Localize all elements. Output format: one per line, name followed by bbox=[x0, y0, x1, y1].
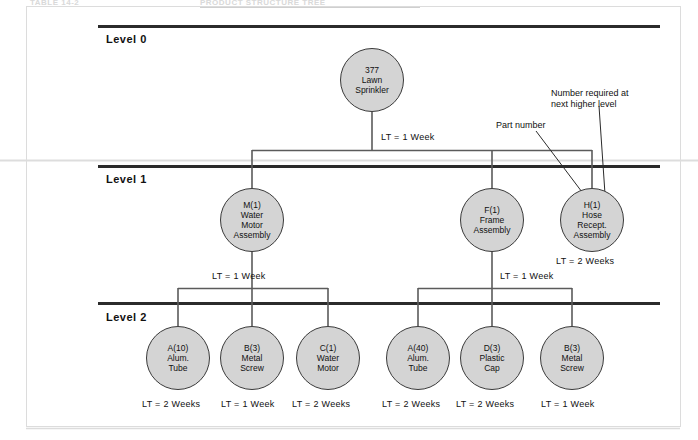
node-line: Recept. bbox=[577, 220, 606, 230]
lead-time-b3-left: LT = 1 Week bbox=[221, 399, 275, 409]
node-b3-metal-screw-left[interactable]: B(3) Metal Screw bbox=[220, 326, 284, 390]
node-line: Motor bbox=[241, 220, 263, 230]
product-structure-tree-figure: TABLE 14-2 PRODUCT STRUCTURE TREE bbox=[0, 0, 698, 440]
node-c1-water-motor[interactable]: C(1) Water Motor bbox=[296, 326, 360, 390]
node-line: Metal bbox=[562, 353, 583, 363]
node-line: Metal bbox=[242, 353, 263, 363]
node-line: A(10) bbox=[168, 343, 189, 353]
node-line: Water bbox=[241, 210, 263, 220]
level-label-1: Level 1 bbox=[106, 173, 147, 185]
node-d3-plastic-cap[interactable]: D(3) Plastic Cap bbox=[460, 326, 524, 390]
node-a10-alum-tube[interactable]: A(10) Alum. Tube bbox=[146, 326, 210, 390]
node-h1-hose-recept-assembly[interactable]: H(1) Hose Recept. Assembly bbox=[560, 188, 624, 252]
lead-time-a10: LT = 2 Weeks bbox=[142, 399, 200, 409]
lead-time-f1: LT = 1 Week bbox=[500, 271, 554, 281]
lead-time-a40: LT = 2 Weeks bbox=[382, 399, 440, 409]
node-line: Motor bbox=[317, 363, 339, 373]
node-line: Lawn bbox=[362, 75, 382, 85]
node-line: H(1) bbox=[584, 200, 601, 210]
lead-time-m1: LT = 1 Week bbox=[212, 271, 266, 281]
annotation-number-required-line1: Number required at bbox=[551, 88, 629, 99]
node-line: Plastic bbox=[479, 353, 504, 363]
node-line: Screw bbox=[560, 363, 584, 373]
node-line: Screw bbox=[240, 363, 264, 373]
node-line: A(40) bbox=[408, 343, 429, 353]
node-line: F(1) bbox=[484, 205, 500, 215]
lead-time-d3: LT = 2 Weeks bbox=[456, 399, 514, 409]
node-a40-alum-tube[interactable]: A(40) Alum. Tube bbox=[386, 326, 450, 390]
node-line: Assembly bbox=[234, 230, 271, 240]
node-line: Sprinkler bbox=[355, 85, 389, 95]
node-line: D(3) bbox=[484, 343, 501, 353]
node-377-lawn-sprinkler[interactable]: 377 Lawn Sprinkler bbox=[340, 48, 404, 112]
node-line: Hose bbox=[582, 210, 602, 220]
node-line: 377 bbox=[365, 65, 379, 75]
node-f1-frame-assembly[interactable]: F(1) Frame Assembly bbox=[460, 188, 524, 252]
leader-part-number bbox=[536, 131, 585, 196]
annotation-part-number: Part number bbox=[496, 120, 546, 131]
node-line: Alum. bbox=[407, 353, 429, 363]
lead-time-b3-right: LT = 1 Week bbox=[541, 399, 595, 409]
node-line: C(1) bbox=[320, 343, 337, 353]
node-line: Assembly bbox=[474, 225, 511, 235]
node-line: Tube bbox=[408, 363, 427, 373]
node-line: Alum. bbox=[167, 353, 189, 363]
node-line: B(3) bbox=[244, 343, 260, 353]
node-line: Cap bbox=[484, 363, 500, 373]
node-b3-metal-screw-right[interactable]: B(3) Metal Screw bbox=[540, 326, 604, 390]
lead-time-h1: LT = 2 Weeks bbox=[556, 256, 614, 266]
lead-time-c1: LT = 2 Weeks bbox=[292, 399, 350, 409]
node-line: B(3) bbox=[564, 343, 580, 353]
node-line: Water bbox=[317, 353, 339, 363]
lead-time-root: LT = 1 Week bbox=[381, 132, 435, 142]
node-line: Assembly bbox=[574, 230, 611, 240]
node-line: Frame bbox=[480, 215, 505, 225]
level-label-0: Level 0 bbox=[106, 33, 147, 45]
node-m1-water-motor-assembly[interactable]: M(1) Water Motor Assembly bbox=[220, 188, 284, 252]
leader-number-required bbox=[599, 106, 605, 194]
node-line: Tube bbox=[168, 363, 187, 373]
annotation-number-required-line2: next higher level bbox=[551, 99, 617, 110]
node-line: M(1) bbox=[243, 200, 260, 210]
level-label-2: Level 2 bbox=[106, 311, 147, 323]
